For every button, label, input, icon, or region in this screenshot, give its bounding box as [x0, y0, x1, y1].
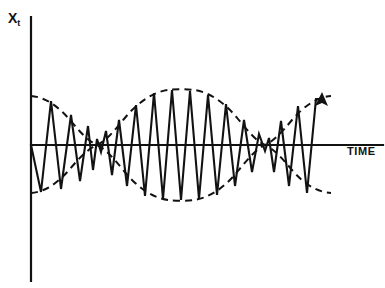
figure-canvas: Xt TIME [0, 0, 385, 288]
modulated-signal-curve [31, 90, 322, 200]
y-axis-label-subscript: t [17, 18, 20, 28]
y-axis-label-main: X [8, 10, 17, 26]
x-axis-label: TIME [347, 145, 376, 157]
upper-envelope-curve [31, 89, 331, 145]
waveform-plot [0, 0, 385, 288]
y-axis-label: Xt [8, 10, 20, 28]
